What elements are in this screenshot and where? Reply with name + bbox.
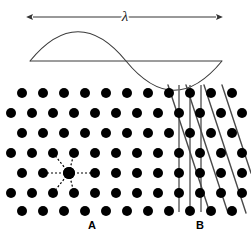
lattice-dot xyxy=(164,206,174,216)
lattice-dot xyxy=(164,88,174,98)
lattice-row xyxy=(6,188,247,198)
lattice-dot xyxy=(185,206,195,216)
lattice-dot xyxy=(90,188,100,198)
lattice-dot xyxy=(17,206,27,216)
lattice-dot xyxy=(132,108,142,118)
diagonal-plane-line xyxy=(222,85,251,173)
lattice-dot xyxy=(174,168,184,178)
lattice-dot xyxy=(101,88,111,98)
lattice-dot xyxy=(132,188,142,198)
lattice-dot xyxy=(69,108,79,118)
lattice-dot xyxy=(185,128,195,138)
lattice-dot xyxy=(6,188,16,198)
lattice-dot xyxy=(153,108,163,118)
lattice-dot xyxy=(153,168,163,178)
lattice-dot xyxy=(195,188,205,198)
lattice-dot xyxy=(227,206,237,216)
lattice-dot xyxy=(59,128,69,138)
lattice-row xyxy=(17,88,237,98)
lattice-dot xyxy=(174,188,184,198)
wave-panel: λ xyxy=(30,8,222,90)
lattice-dot xyxy=(164,128,174,138)
lattice-dot xyxy=(80,88,90,98)
lattice-dot xyxy=(143,88,153,98)
lattice-dot xyxy=(59,88,69,98)
lattice-dot xyxy=(80,206,90,216)
lattice-dot xyxy=(59,206,69,216)
lattice-dot xyxy=(237,188,247,198)
lattice-dot xyxy=(111,168,121,178)
lattice-dot xyxy=(216,188,226,198)
lattice-dot xyxy=(17,168,27,178)
lattice-dot xyxy=(153,148,163,158)
lattice-dot xyxy=(90,108,100,118)
lattice-panel xyxy=(6,85,251,216)
crystal-wave-figure: λ xyxy=(0,0,251,241)
lattice-dot xyxy=(195,148,205,158)
lattice-dot xyxy=(216,108,226,118)
lattice-dot xyxy=(174,108,184,118)
lattice-dot xyxy=(206,128,216,138)
lattice-dot xyxy=(17,88,27,98)
region-label-a: A xyxy=(88,220,96,231)
lattice-dot xyxy=(27,188,37,198)
lambda-symbol: λ xyxy=(121,8,129,24)
lattice-row xyxy=(6,108,247,118)
lattice-dot xyxy=(206,206,216,216)
lattice-dot xyxy=(227,88,237,98)
lattice-dot xyxy=(122,128,132,138)
lattice-dot xyxy=(237,108,247,118)
lattice-dot xyxy=(101,128,111,138)
lattice-dot xyxy=(38,206,48,216)
lattice-dot xyxy=(6,108,16,118)
lattice-dot xyxy=(122,88,132,98)
lattice-dot xyxy=(174,148,184,158)
lattice-dot xyxy=(206,88,216,98)
lattice-dot xyxy=(111,108,121,118)
lattice-dot xyxy=(38,128,48,138)
figure-canvas: λ xyxy=(0,0,251,241)
region-a-center-marker xyxy=(63,167,75,179)
lattice-dot xyxy=(132,168,142,178)
region-label-b: B xyxy=(196,220,204,231)
lattice-dot xyxy=(237,148,247,158)
lattice-dot xyxy=(195,168,205,178)
lattice-dot xyxy=(111,188,121,198)
lattice-dot xyxy=(17,128,27,138)
lattice-dot xyxy=(216,168,226,178)
lattice-row xyxy=(6,148,247,158)
lattice-dot xyxy=(27,108,37,118)
lattice-dot xyxy=(216,148,226,158)
lattice-dot xyxy=(143,128,153,138)
lattice-dot xyxy=(38,88,48,98)
lattice-dot xyxy=(90,148,100,158)
lattice-dot xyxy=(185,88,195,98)
lattice-dot xyxy=(132,148,142,158)
lattice-dot xyxy=(27,148,37,158)
lattice-dot xyxy=(48,108,58,118)
lattice-dot xyxy=(80,128,90,138)
lattice-row xyxy=(17,206,237,216)
lattice-dot xyxy=(122,206,132,216)
lattice-dot xyxy=(237,168,247,178)
lattice-dot xyxy=(111,148,121,158)
lattice-dot xyxy=(6,148,16,158)
lattice-dot xyxy=(227,128,237,138)
lattice-dot xyxy=(195,108,205,118)
lattice-dot xyxy=(101,206,111,216)
lattice-dot xyxy=(143,206,153,216)
lattice-dot xyxy=(153,188,163,198)
lattice-row xyxy=(17,128,237,138)
